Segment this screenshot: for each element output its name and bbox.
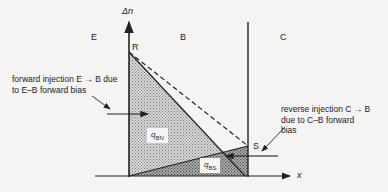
charge-label-qbs: qBS [200, 158, 220, 173]
y-axis-label: Δn [122, 6, 133, 17]
reverse-injection-annotation: reverse injection C → B due to C–B forwa… [281, 104, 370, 136]
region-label-emitter: E [91, 32, 97, 43]
charge-label-qbn: qBN [147, 128, 168, 143]
x-axis-label: x [297, 170, 302, 181]
point-label-s: S [253, 141, 259, 152]
forward-leader-line [92, 96, 110, 109]
point-label-r: R [132, 42, 139, 53]
region-label-collector: C [280, 32, 287, 43]
forward-injection-annotation: forward injection E → B due to E–B forwa… [12, 74, 117, 95]
diagram-canvas [0, 0, 388, 192]
region-label-base: B [180, 32, 186, 43]
